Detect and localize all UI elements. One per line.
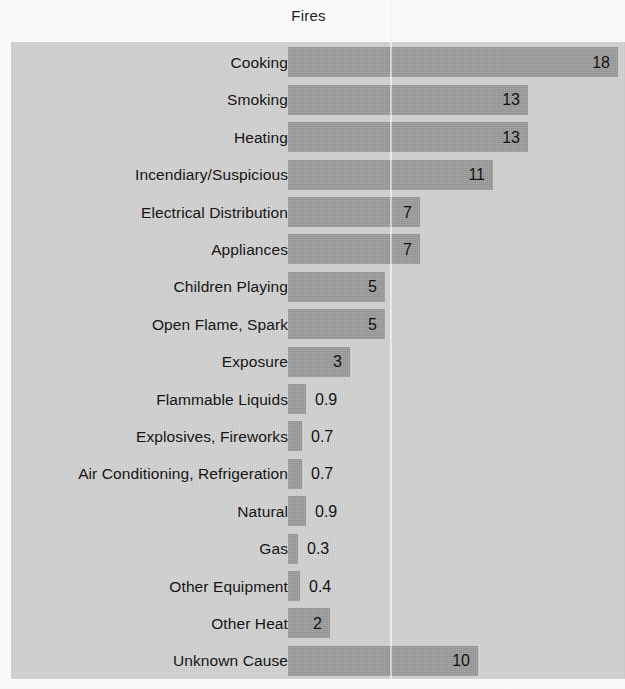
bar-rows: Cooking18Smoking13Heating13Incendiary/Su… [11,42,625,679]
category-label: Other Heat [211,605,288,642]
category-label: Unknown Cause [173,642,288,679]
bar [288,234,420,264]
bar [288,122,528,152]
chart-page: Fires Cooking18Smoking13Heating13Incendi… [0,0,625,689]
category-label: Gas [259,530,288,567]
bar [288,160,493,190]
plot-area: Cooking18Smoking13Heating13Incendiary/Su… [11,42,625,679]
bar [288,608,330,638]
bar-row: Cooking18 [11,44,625,81]
category-label: Explosives, Fireworks [136,418,288,455]
bar-value-label: 0.9 [315,381,337,418]
bar [288,47,618,77]
bar-value-label: 0.7 [311,455,333,492]
bar-row: Flammable Liquids0.9 [11,381,625,418]
bar-value-label: 0.4 [309,568,331,605]
category-label: Natural [237,493,288,530]
bar-value-label: 7 [403,231,412,268]
bar-row: Unknown Cause10 [11,642,625,679]
bar-row: Heating13 [11,119,625,156]
category-label: Air Conditioning, Refrigeration [78,455,288,492]
bar-value-label: 5 [368,306,377,343]
category-label: Open Flame, Spark [152,306,288,343]
bar-value-label: 7 [403,194,412,231]
category-label: Heating [234,119,288,156]
bar-row: Other Equipment0.4 [11,568,625,605]
bar-row: Natural0.9 [11,493,625,530]
category-label: Cooking [230,44,288,81]
bar-value-label: 0.3 [307,530,329,567]
bar-row: Air Conditioning, Refrigeration0.7 [11,455,625,492]
bar-value-label: 3 [333,343,342,380]
bar-value-label: 11 [468,156,485,193]
category-label: Children Playing [174,268,288,305]
bar-value-label: 0.7 [311,418,333,455]
category-label: Flammable Liquids [156,381,288,418]
category-label: Incendiary/Suspicious [135,156,288,193]
chart-title: Fires [0,7,625,24]
bar [288,384,306,414]
bar-row: Electrical Distribution7 [11,194,625,231]
category-label: Appliances [211,231,288,268]
category-label: Electrical Distribution [141,194,288,231]
bar-row: Incendiary/Suspicious11 [11,156,625,193]
bar-value-label: 10 [452,642,470,679]
bar-row: Appliances7 [11,231,625,268]
bar-row: Open Flame, Spark5 [11,306,625,343]
bar [288,421,302,451]
category-label: Smoking [227,81,288,118]
bar [288,85,528,115]
bar [288,646,478,676]
bar-row: Smoking13 [11,81,625,118]
bar-row: Other Heat2 [11,605,625,642]
bar-row: Explosives, Fireworks0.7 [11,418,625,455]
bar-row: Children Playing5 [11,268,625,305]
chart-title-text: Fires [291,7,325,24]
bar-value-label: 18 [592,44,610,81]
bar [288,459,302,489]
bar-value-label: 13 [502,81,520,118]
bar-value-label: 0.9 [315,493,337,530]
bar [288,496,306,526]
bar-row: Gas0.3 [11,530,625,567]
category-label: Exposure [222,343,288,380]
bar-value-label: 13 [502,119,520,156]
bar [288,534,298,564]
bar [288,571,300,601]
bar-value-label: 5 [368,268,377,305]
bar-row: Exposure3 [11,343,625,380]
bar-value-label: 2 [313,605,322,642]
category-label: Other Equipment [169,568,288,605]
bar [288,197,420,227]
